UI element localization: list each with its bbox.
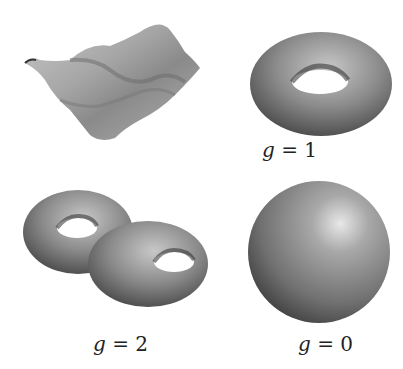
genus-label-2: g = 2 xyxy=(93,332,148,356)
label-eq: = xyxy=(106,332,135,356)
torus xyxy=(250,32,392,136)
label-var: g xyxy=(298,332,311,356)
label-var: g xyxy=(262,138,275,162)
genus-label-1: g = 1 xyxy=(262,138,317,162)
label-val: 1 xyxy=(304,138,317,162)
wavy-surface xyxy=(25,24,200,139)
label-eq: = xyxy=(311,332,340,356)
label-val: 0 xyxy=(340,332,353,356)
figure-canvas xyxy=(0,0,403,369)
double-torus xyxy=(23,190,208,307)
label-var: g xyxy=(93,332,106,356)
sphere xyxy=(248,181,390,323)
label-eq: = xyxy=(275,138,304,162)
genus-label-0: g = 0 xyxy=(298,332,353,356)
label-val: 2 xyxy=(135,332,148,356)
